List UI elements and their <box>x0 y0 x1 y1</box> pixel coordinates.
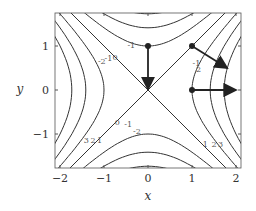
contour-lines <box>0 0 256 211</box>
contour-level--2 <box>0 0 256 28</box>
x-tick-label: −2 <box>52 172 68 185</box>
contour-label: 3 <box>218 140 223 149</box>
contour-level-1 <box>192 0 256 211</box>
contour-label: 2 <box>196 65 201 74</box>
x-tick-label: 2 <box>233 172 240 185</box>
y-tick-label: −1 <box>33 128 49 141</box>
y-tick-label: 0 <box>42 84 49 97</box>
contour-level--2 <box>0 152 256 211</box>
x-tick-label: 0 <box>145 172 152 185</box>
contour-label: 0 <box>112 53 117 62</box>
x-tick-label: −1 <box>96 172 112 185</box>
contour-plot: -2-10-1-123210-1-2123 −2−1012−101 x y <box>0 0 256 211</box>
contour-label: 2 <box>90 136 95 145</box>
contour-level-3 <box>224 0 256 211</box>
contour-label: -1 <box>105 54 113 63</box>
contour-label: -2 <box>133 127 141 136</box>
x-tick-label: 1 <box>189 172 196 185</box>
axis-ticks: −2−1012−101 <box>33 13 241 185</box>
contour-level-2 <box>0 0 86 211</box>
contour-label: 0 <box>115 118 120 127</box>
contour-label: -1 <box>124 120 132 129</box>
contour-level--3 <box>0 0 256 14</box>
contour-label: -1 <box>127 41 135 50</box>
contour-level--3 <box>0 166 256 211</box>
point-marker <box>189 43 195 49</box>
contour-label: 3 <box>84 136 89 145</box>
contour-label: 2 <box>211 140 216 149</box>
contour-label: 1 <box>97 136 102 145</box>
x-axis-label: x <box>145 189 152 203</box>
contour-label: 1 <box>203 140 208 149</box>
y-axis-label: y <box>16 82 24 96</box>
point-marker <box>189 87 195 93</box>
point-marker <box>145 43 151 49</box>
contour-level--1 <box>0 0 256 46</box>
gradient-vectors <box>145 43 236 93</box>
y-tick-label: 1 <box>42 40 49 53</box>
